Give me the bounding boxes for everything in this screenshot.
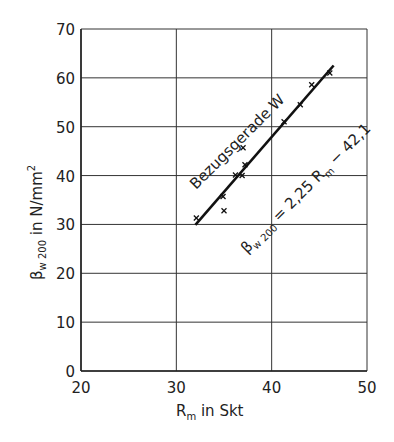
y-tick-label: 30 — [56, 216, 75, 234]
regression-line — [195, 66, 333, 225]
data-point-x-marker — [222, 208, 227, 213]
x-tick-label: 20 — [71, 379, 90, 397]
x-tick-label: 50 — [357, 379, 376, 397]
reference-line-w — [195, 66, 333, 225]
data-point-x-marker — [194, 216, 199, 221]
y-tick-label: 50 — [56, 119, 75, 137]
svg-text:βw 200 in N/mm2: βw 200 in N/mm2 — [26, 165, 48, 280]
ylabel-sub: w 200 — [37, 240, 48, 270]
chart: 20304050010203040506070 Bezugsgerade W β… — [0, 0, 394, 442]
x-axis-label: Rm in Skt — [176, 402, 244, 422]
y-tick-label: 60 — [56, 70, 75, 88]
eq-tail: − 42,1 — [322, 120, 374, 172]
y-tick-label: 10 — [56, 314, 75, 332]
svg-text:Rm in Skt: Rm in Skt — [176, 402, 244, 422]
ylabel-main: β — [28, 270, 46, 280]
xlabel-rest: in Skt — [196, 402, 243, 420]
grid — [81, 29, 367, 371]
x-tick-label: 40 — [262, 379, 281, 397]
y-tick-label: 70 — [56, 21, 75, 39]
y-axis-label: βw 200 in N/mm2 — [26, 165, 48, 280]
y-tick-label: 20 — [56, 265, 75, 283]
xlabel-main: R — [176, 402, 186, 420]
data-point-x-marker — [309, 82, 314, 87]
equation-label: βw 200 = 2,25 Rm − 42,1 — [237, 120, 376, 259]
x-tick-label: 30 — [167, 379, 186, 397]
y-tick-label: 0 — [65, 363, 75, 381]
svg-text:βw 200 = 2,25 Rm − 42,1: βw 200 = 2,25 Rm − 42,1 — [237, 120, 376, 259]
y-tick-label: 40 — [56, 168, 75, 186]
ylabel-rest: in N/mm — [28, 171, 46, 240]
ylabel-sup: 2 — [26, 165, 37, 171]
axes — [81, 29, 367, 371]
xlabel-sub: m — [186, 411, 196, 422]
